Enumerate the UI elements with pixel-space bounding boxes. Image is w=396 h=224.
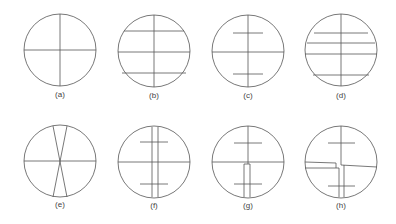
reticle-panel-e xyxy=(24,125,96,197)
reticle-panel-d xyxy=(305,14,377,86)
label-f: (f) xyxy=(150,202,158,210)
reticle-panel-b xyxy=(118,15,190,87)
label-a: (a) xyxy=(55,91,65,99)
reticle-panel-c xyxy=(212,15,284,87)
reticle-diagrams xyxy=(0,0,396,224)
reticle-figure: (a) (b) (c) (d) (e) (f) (g) (h) xyxy=(0,0,396,224)
label-e: (e) xyxy=(55,201,65,209)
reticle-panel-a xyxy=(24,14,96,86)
reticle-line xyxy=(305,162,336,163)
reticle-panel-f xyxy=(118,126,190,198)
label-b: (b) xyxy=(149,92,159,100)
reticle-line xyxy=(341,165,377,167)
label-h: (h) xyxy=(336,202,346,210)
reticle-panel-g xyxy=(212,126,284,198)
label-c: (c) xyxy=(243,92,252,100)
label-d: (d) xyxy=(336,92,346,100)
label-g: (g) xyxy=(243,202,253,210)
reticle-panel-h xyxy=(305,126,377,198)
